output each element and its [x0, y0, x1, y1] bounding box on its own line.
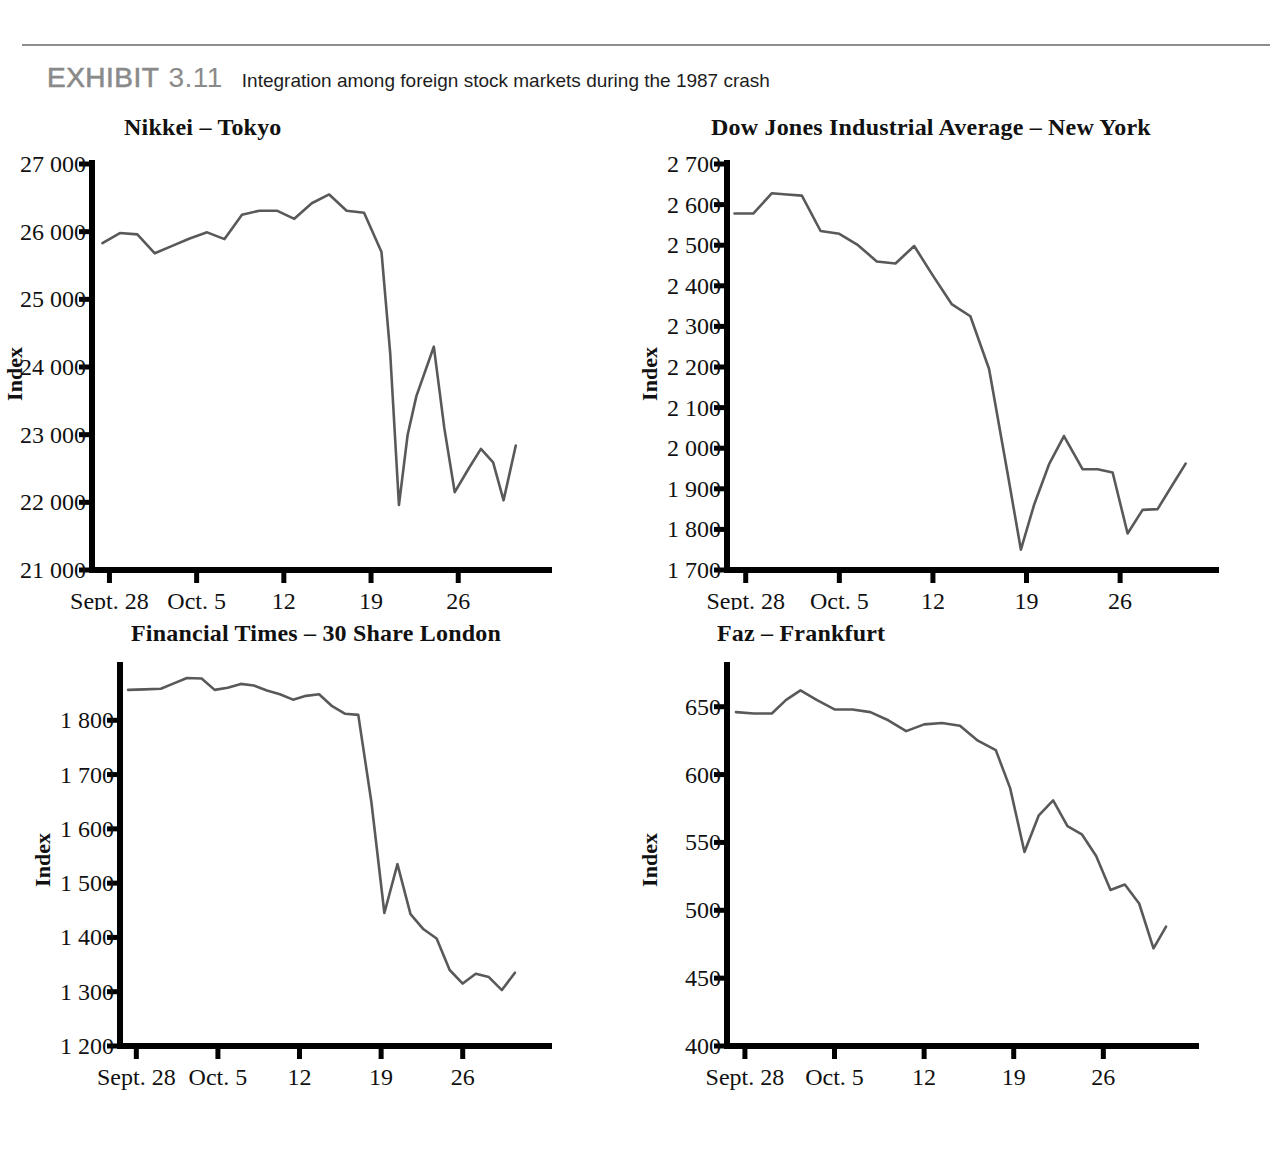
x-tick-label: 19	[359, 588, 383, 610]
y-tick-label: 650	[685, 694, 721, 720]
chart-nikkei: 21 00022 00023 00024 00025 00026 00027 0…	[0, 104, 635, 610]
x-tick-label: 12	[272, 588, 296, 610]
x-tick-label: Sept. 28	[706, 588, 785, 610]
x-tick-label: Oct. 5	[189, 1064, 248, 1090]
y-tick-label: 1 300	[60, 979, 114, 1005]
y-tick-label: 1 800	[667, 516, 721, 542]
y-tick-label: 1 600	[60, 816, 114, 842]
y-tick-label: 1 900	[667, 476, 721, 502]
x-tick-label: 26	[446, 588, 470, 610]
y-tick-label: 1 400	[60, 924, 114, 950]
y-tick-label: 24 000	[20, 354, 86, 380]
x-tick-label: Sept. 28	[706, 1064, 785, 1090]
y-tick-label: 21 000	[20, 557, 86, 583]
y-axis-title: Index	[30, 833, 55, 887]
y-tick-label: 450	[685, 965, 721, 991]
y-tick-label: 600	[685, 762, 721, 788]
chart-cell-nikkei: Nikkei – Tokyo 21 00022 00023 00024 0002…	[0, 104, 635, 610]
y-tick-label: 2 300	[667, 313, 721, 339]
y-axis-title: Index	[637, 347, 662, 401]
x-tick-label: Oct. 5	[810, 588, 869, 610]
x-tick-label: 26	[451, 1064, 475, 1090]
y-axis-title: Index	[637, 833, 662, 887]
chart-cell-london: Financial Times – 30 Share London 1 2001…	[0, 610, 635, 1116]
exhibit-label: EXHIBIT	[47, 62, 159, 94]
data-series-line	[736, 690, 1166, 948]
x-tick-label: 12	[921, 588, 945, 610]
x-tick-label: 19	[1015, 588, 1039, 610]
chart-row-top: Nikkei – Tokyo 21 00022 00023 00024 0002…	[0, 104, 1270, 610]
y-tick-label: 26 000	[20, 219, 86, 245]
chart-frankfurt: 400450500550600650Sept. 28Oct. 5121926In…	[635, 610, 1270, 1140]
x-tick-label: 26	[1091, 1064, 1115, 1090]
chart-london: 1 2001 3001 4001 5001 6001 7001 800Sept.…	[0, 610, 635, 1140]
y-tick-label: 500	[685, 897, 721, 923]
y-tick-label: 25 000	[20, 286, 86, 312]
y-tick-label: 1 200	[60, 1033, 114, 1059]
header-divider	[22, 44, 1270, 46]
y-tick-label: 1 700	[667, 557, 721, 583]
y-tick-label: 2 500	[667, 232, 721, 258]
x-tick-label: 19	[1002, 1064, 1026, 1090]
y-tick-label: 2 400	[667, 273, 721, 299]
y-tick-label: 23 000	[20, 422, 86, 448]
chart-grid: Nikkei – Tokyo 21 00022 00023 00024 0002…	[0, 104, 1270, 1116]
y-tick-label: 2 600	[667, 192, 721, 218]
exhibit-header: EXHIBIT 3.11 Integration among foreign s…	[47, 62, 770, 94]
y-tick-label: 22 000	[20, 489, 86, 515]
data-series-line	[734, 193, 1185, 549]
y-tick-label: 400	[685, 1033, 721, 1059]
y-tick-label: 2 700	[667, 151, 721, 177]
y-tick-label: 550	[685, 829, 721, 855]
x-tick-label: 12	[912, 1064, 936, 1090]
exhibit-caption: Integration among foreign stock markets …	[242, 70, 770, 92]
chart-dow: 1 7001 8001 9002 0002 1002 2002 3002 400…	[635, 104, 1270, 610]
x-tick-label: Sept. 28	[97, 1064, 176, 1090]
data-series-line	[128, 678, 515, 990]
y-axis-title: Index	[2, 347, 27, 401]
y-tick-label: 1 500	[60, 870, 114, 896]
x-tick-label: 12	[288, 1064, 312, 1090]
x-tick-label: Oct. 5	[805, 1064, 864, 1090]
x-tick-label: Oct. 5	[167, 588, 226, 610]
x-tick-label: 26	[1108, 588, 1132, 610]
y-tick-label: 2 000	[667, 435, 721, 461]
chart-cell-frankfurt: Faz – Frankfurt 400450500550600650Sept. …	[635, 610, 1270, 1116]
chart-row-bottom: Financial Times – 30 Share London 1 2001…	[0, 610, 1270, 1116]
x-tick-label: Sept. 28	[70, 588, 149, 610]
chart-cell-dow: Dow Jones Industrial Average – New York …	[635, 104, 1270, 610]
y-tick-label: 2 200	[667, 354, 721, 380]
y-tick-label: 1 700	[60, 762, 114, 788]
exhibit-number: 3.11	[168, 62, 222, 94]
data-series-line	[102, 194, 515, 505]
x-tick-label: 19	[369, 1064, 393, 1090]
y-tick-label: 27 000	[20, 151, 86, 177]
y-tick-label: 1 800	[60, 707, 114, 733]
y-tick-label: 2 100	[667, 395, 721, 421]
